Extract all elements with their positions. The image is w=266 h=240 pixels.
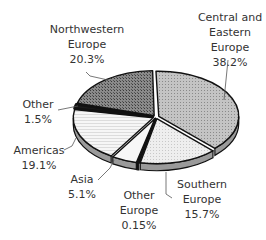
label-central-eastern-europe: Central and Eastern Europe 38.2%: [190, 10, 266, 70]
label-line: Eastern: [190, 25, 266, 40]
label-value: 15.7%: [172, 207, 232, 222]
label-other-europe: Other Europe 0.15%: [114, 188, 164, 233]
label-americas: Americas 19.1%: [8, 143, 70, 173]
label-line: Asia: [64, 172, 100, 187]
label-line: Europe: [190, 40, 266, 55]
label-value: 38.2%: [190, 55, 266, 70]
label-value: 19.1%: [8, 158, 70, 173]
label-line: Northwestern: [42, 22, 132, 37]
label-line: Europe: [172, 192, 232, 207]
label-line: Americas: [8, 143, 70, 158]
label-value: 20.3%: [42, 52, 132, 67]
label-value: 5.1%: [64, 187, 100, 202]
label-northwestern-europe: Northwestern Europe 20.3%: [42, 22, 132, 67]
label-line: Europe: [42, 37, 132, 52]
label-southern-europe: Southern Europe 15.7%: [172, 177, 232, 222]
label-line: Central and: [190, 10, 266, 25]
label-line: Southern: [172, 177, 232, 192]
pie-chart: Central and Eastern Europe 38.2% Northwe…: [0, 0, 266, 240]
label-value: 0.15%: [114, 218, 164, 233]
label-other: Other 1.5%: [20, 97, 56, 127]
label-value: 1.5%: [20, 112, 56, 127]
leader-line: [86, 72, 108, 80]
label-line: Other: [20, 97, 56, 112]
label-line: Other: [114, 188, 164, 203]
label-line: Europe: [114, 203, 164, 218]
label-asia: Asia 5.1%: [64, 172, 100, 202]
